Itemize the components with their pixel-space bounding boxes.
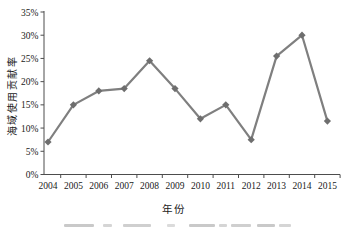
line-chart-canvas: 0%5%10%15%20%25%30%35%200420052006200720… <box>0 0 344 228</box>
caption-fragment-mark <box>219 224 227 227</box>
y-tick-label: 35% <box>21 8 39 18</box>
x-tick-label: 2006 <box>89 181 108 191</box>
y-axis-title: 海域使用贡献率 <box>4 56 19 137</box>
y-tick-label: 15% <box>21 100 39 110</box>
chart-figure: 0%5%10%15%20%25%30%35%200420052006200720… <box>0 0 344 228</box>
y-tick-label: 20% <box>21 77 39 87</box>
caption-fragment-mark <box>103 224 112 227</box>
caption-fragment-mark <box>231 224 251 227</box>
caption-fragment-mark <box>257 224 275 227</box>
x-tick-label: 2010 <box>191 181 210 191</box>
x-tick-label: 2007 <box>115 181 134 191</box>
caption-fragment-mark <box>189 224 215 227</box>
x-tick-label: 2009 <box>166 181 185 191</box>
x-tick-label: 2008 <box>140 181 159 191</box>
x-tick-label: 2005 <box>64 181 83 191</box>
y-tick-label: 5% <box>26 147 39 157</box>
y-tick-label: 0% <box>26 170 39 180</box>
x-tick-label: 2014 <box>293 181 312 191</box>
y-tick-label: 10% <box>21 124 39 134</box>
x-tick-label: 2004 <box>39 181 58 191</box>
y-tick-label: 25% <box>21 54 39 64</box>
x-tick-label: 2011 <box>216 181 235 191</box>
caption-fragment-mark <box>64 224 94 227</box>
data-point-2015 <box>324 118 331 125</box>
data-line <box>48 35 327 142</box>
x-axis-title: 年份 <box>162 201 186 216</box>
caption-fragment-mark <box>279 224 291 227</box>
x-tick-label: 2015 <box>318 181 337 191</box>
caption-fragment-mark <box>167 224 175 227</box>
caption-fragment-mark <box>123 224 151 227</box>
cropped-caption-fragment <box>0 222 344 228</box>
y-tick-label: 30% <box>21 31 39 41</box>
x-tick-label: 2012 <box>242 181 261 191</box>
x-tick-label: 2013 <box>267 181 286 191</box>
